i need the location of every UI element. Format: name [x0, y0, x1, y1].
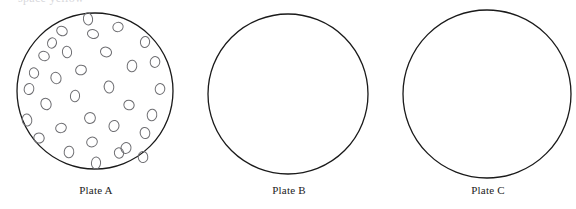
plate-c-group	[403, 10, 571, 178]
plates-svg-canvas	[0, 0, 576, 209]
plates-figure: space yellow Plate A Plate B Plate C	[0, 0, 576, 209]
plate-a-group	[17, 12, 173, 169]
plate-b-group	[208, 14, 368, 174]
plate-c-dish-outline	[403, 10, 571, 178]
plate-c-label: Plate C	[0, 184, 576, 197]
plate-b-dish-outline	[208, 14, 368, 174]
